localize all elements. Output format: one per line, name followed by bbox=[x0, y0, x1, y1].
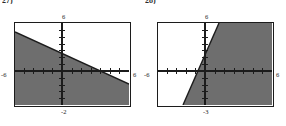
panel-label-right: 28) bbox=[145, 0, 156, 4]
plot-frame-left bbox=[14, 22, 131, 107]
x-min-label-right: -6 bbox=[144, 71, 149, 78]
plot-area-left bbox=[15, 23, 130, 106]
graph-panel-right: 28) bbox=[143, 0, 286, 126]
plot-area-right bbox=[158, 23, 273, 106]
x-min-label-left: -6 bbox=[1, 71, 6, 78]
y-min-label-left: -2 bbox=[61, 108, 66, 115]
x-max-label-left: 6 bbox=[133, 71, 136, 78]
plot-graphics-left bbox=[15, 23, 129, 105]
y-max-label-right: 6 bbox=[205, 13, 208, 20]
y-max-label-left: 6 bbox=[62, 13, 65, 20]
plot-frame-right bbox=[157, 22, 274, 107]
y-min-label-right: -3 bbox=[203, 108, 208, 115]
graph-panel-left: 27) bbox=[0, 0, 143, 126]
worksheet-canvas: 27) bbox=[0, 0, 286, 126]
shaded-region-right bbox=[183, 23, 272, 105]
panel-label-left: 27) bbox=[2, 0, 13, 4]
x-max-label-right: 6 bbox=[276, 71, 279, 78]
plot-graphics-right bbox=[158, 23, 272, 105]
